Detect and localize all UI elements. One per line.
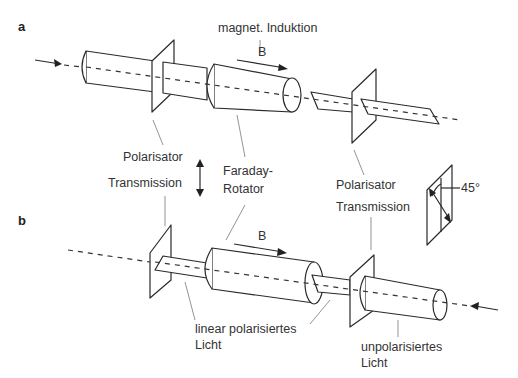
panel-a-graphics — [35, 40, 460, 175]
unpolarized-label-line2: Licht — [361, 356, 387, 371]
faraday-isolator-diagram: a b magnet. Induktion B B Polarisator Tr… — [0, 0, 518, 378]
double-arrow-up-icon — [196, 159, 204, 167]
unpolarized-beam-b — [365, 276, 440, 320]
arrowhead-icon — [54, 59, 62, 67]
transmission-label-left: Transmission — [108, 176, 182, 191]
panel-label-b: b — [18, 213, 26, 228]
linear-polarized-label-line2: Licht — [195, 338, 221, 353]
angle-label: 45° — [461, 181, 480, 196]
incoming-arrow-b-icon — [470, 302, 479, 310]
angle-inset — [427, 165, 460, 245]
linear-polarized-label-line1: linear polarisiertes — [195, 322, 296, 337]
b-field-label-b: B — [258, 229, 266, 244]
unpolarized-label-line1: unpolarisiertes — [361, 340, 442, 355]
faraday-rotator-b — [212, 248, 314, 303]
magnetic-induction-label: magnet. Induktion — [218, 21, 317, 36]
polarized-beam-a — [163, 62, 207, 100]
b-field-arrow-icon — [278, 64, 288, 71]
double-arrow-down-icon — [196, 189, 204, 197]
b-field-label-a: B — [258, 45, 266, 60]
transmission-label-right: Transmission — [336, 200, 410, 215]
polarizer-label-right: Polarisator — [336, 178, 396, 193]
panel-label-a: a — [18, 19, 25, 34]
faraday-label-line1: Faraday- — [223, 164, 273, 179]
polarizer-label-left: Polarisator — [123, 150, 183, 165]
faraday-rotator-a — [214, 64, 292, 112]
faraday-label-line2: Rotator — [223, 182, 264, 197]
